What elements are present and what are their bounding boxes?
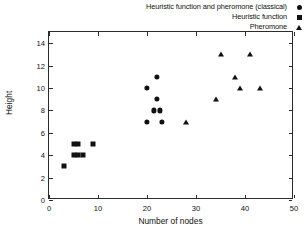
data-point [157, 108, 162, 113]
y-axis-tick [289, 178, 293, 179]
x-axis-tick [147, 195, 148, 199]
y-axis-tick [49, 110, 53, 111]
y-axis-tick [49, 178, 53, 179]
data-point [144, 85, 149, 90]
chart-legend: Heuristic function and pheromone (classi… [120, 2, 305, 32]
y-axis-tick [289, 66, 293, 67]
y-axis-tick [49, 200, 53, 201]
x-axis-tick [49, 32, 50, 36]
x-axis-tick [245, 195, 246, 199]
x-axis-tick [294, 195, 295, 199]
y-axis-tick-label: 6 [41, 128, 45, 137]
x-axis-tick-label: 30 [192, 204, 200, 213]
legend-item-label: Heuristic function and pheromone (classi… [146, 2, 287, 12]
y-axis-tick-label: 4 [41, 151, 45, 160]
y-axis-label: Height [4, 91, 14, 115]
data-point [247, 52, 253, 57]
y-axis-tick-label: 10 [37, 84, 45, 93]
legend-item: Heuristic function [232, 12, 305, 22]
y-axis-tick-label: 2 [41, 173, 45, 182]
x-axis-label: Number of nodes [48, 216, 293, 226]
data-point [154, 74, 159, 79]
x-axis-tick [294, 32, 295, 36]
data-point [154, 97, 159, 102]
scatter-chart-figure: Heuristic function and pheromone (classi… [0, 0, 307, 238]
plot-area [49, 32, 292, 198]
y-axis-tick-label: 12 [37, 61, 45, 70]
circle-marker-icon [293, 5, 305, 10]
data-point [61, 164, 66, 169]
x-axis-tick [147, 32, 148, 36]
x-axis-tick [196, 32, 197, 36]
y-axis-tick [289, 88, 293, 89]
data-point [257, 86, 263, 91]
data-point [144, 119, 149, 124]
data-point [81, 153, 86, 158]
data-point [159, 119, 164, 124]
y-axis-tick [289, 200, 293, 201]
y-axis-tick [289, 43, 293, 44]
y-axis-tick [49, 133, 53, 134]
x-axis-tick [196, 195, 197, 199]
y-axis-tick [49, 155, 53, 156]
legend-item: Heuristic function and pheromone (classi… [146, 2, 305, 12]
x-axis-tick [98, 195, 99, 199]
data-point [183, 119, 189, 124]
y-axis-tick-label: 8 [41, 106, 45, 115]
y-axis-tick [289, 133, 293, 134]
legend-item-label: Heuristic function [232, 12, 287, 22]
data-point [151, 108, 156, 113]
y-axis-tick [289, 155, 293, 156]
y-axis-tick-label: 14 [37, 39, 45, 48]
data-point [213, 97, 219, 102]
x-axis-tick [98, 32, 99, 36]
x-axis-tick [245, 32, 246, 36]
data-point [232, 74, 238, 79]
x-axis-tick-label: 40 [241, 204, 249, 213]
y-axis-tick-label: 0 [41, 196, 45, 205]
x-axis-tick-label: 50 [290, 204, 298, 213]
y-axis-tick [49, 88, 53, 89]
plot-frame: 0102030405002468101214 [48, 31, 293, 199]
data-point [237, 86, 243, 91]
triangle-marker-icon [293, 25, 305, 30]
square-marker-icon [293, 15, 305, 20]
x-axis-tick-label: 0 [47, 204, 51, 213]
y-axis-tick [49, 43, 53, 44]
y-axis-tick [289, 110, 293, 111]
data-point [218, 52, 224, 57]
data-point [91, 142, 96, 147]
x-axis-tick-label: 10 [94, 204, 102, 213]
x-axis-tick [49, 195, 50, 199]
x-axis-tick-label: 20 [143, 204, 151, 213]
y-axis-tick [49, 66, 53, 67]
data-point [76, 142, 81, 147]
